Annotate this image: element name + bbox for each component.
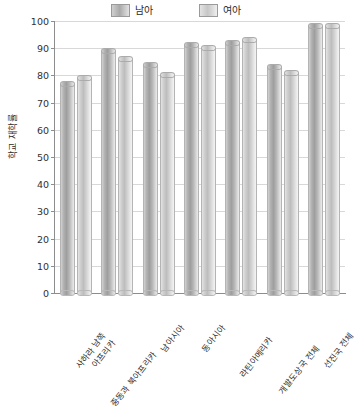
bar-boys bbox=[60, 84, 75, 293]
x-axis-tick-label: 선진국 전체 bbox=[320, 330, 356, 371]
bar-boys bbox=[184, 45, 199, 293]
bar-group bbox=[304, 21, 345, 293]
x-axis-tick-label: 남아시아 bbox=[157, 321, 186, 354]
bar-top-ellipse-icon bbox=[143, 62, 158, 68]
x-axis-tick-label: 개발도상국 전체 bbox=[275, 342, 321, 396]
bar-group bbox=[55, 21, 96, 293]
bar-girls bbox=[242, 40, 257, 293]
y-axis-tick-label: 50 bbox=[37, 152, 49, 163]
bar-top-ellipse-icon bbox=[308, 23, 323, 29]
bar-boys bbox=[101, 51, 116, 293]
bar-top-ellipse-icon bbox=[325, 23, 340, 29]
legend-item-girls: 여아 bbox=[199, 4, 241, 17]
y-axis-tick-label: 10 bbox=[37, 260, 49, 271]
bar-top-ellipse-icon bbox=[160, 72, 175, 78]
bar-girls bbox=[77, 78, 92, 293]
y-axis-title: 학교 재학률 bbox=[6, 67, 19, 207]
y-axis-tick-label: 60 bbox=[37, 124, 49, 135]
bar-girls bbox=[201, 48, 216, 293]
bar-group bbox=[96, 21, 137, 293]
bar-top-ellipse-icon bbox=[242, 37, 257, 43]
x-axis-tick-label: 사하라 남쪽아프리카 bbox=[72, 330, 117, 378]
legend-label-boys: 남아 bbox=[135, 5, 153, 16]
bar-top-ellipse-icon bbox=[184, 42, 199, 48]
x-axis-tick-label: 동아시아 bbox=[199, 321, 228, 354]
y-axis-tick-label: 40 bbox=[37, 179, 49, 190]
x-axis-tick-labels: 사하라 남쪽아프리카중동과 북아프리카남아시아동아시아라틴아메리카개발도상국 전… bbox=[55, 296, 345, 362]
bar-group bbox=[221, 21, 262, 293]
bar-top-ellipse-icon bbox=[118, 56, 133, 62]
bar-boys bbox=[225, 43, 240, 293]
x-axis-tick-label: 중동과 북아프리카 bbox=[108, 349, 159, 409]
bar-top-ellipse-icon bbox=[201, 45, 216, 51]
bar-groups bbox=[55, 21, 345, 293]
bar-top-ellipse-icon bbox=[77, 75, 92, 81]
y-axis-tick-label: 0 bbox=[43, 288, 49, 299]
legend-label-girls: 여아 bbox=[223, 5, 241, 16]
bar-boys bbox=[308, 26, 323, 293]
y-axis-tick-label: 80 bbox=[37, 70, 49, 81]
bar-group bbox=[179, 21, 220, 293]
x-axis-line bbox=[54, 293, 346, 294]
x-axis-tick-label: 라틴아메리카 bbox=[236, 334, 275, 379]
plot-area: 0102030405060708090100 bbox=[55, 21, 345, 293]
bar-top-ellipse-icon bbox=[101, 48, 116, 54]
bar-group bbox=[262, 21, 303, 293]
y-axis-tick-label: 30 bbox=[37, 206, 49, 217]
y-axis-tick-mark bbox=[51, 293, 55, 294]
bar-girls bbox=[118, 59, 133, 293]
chart-legend: 남아 여아 bbox=[0, 4, 351, 17]
bar-top-ellipse-icon bbox=[284, 70, 299, 76]
bar-boys bbox=[143, 65, 158, 293]
y-axis-tick-label: 100 bbox=[31, 16, 49, 27]
bar-girls bbox=[160, 75, 175, 293]
bar-girls bbox=[325, 26, 340, 293]
y-axis-tick-label: 70 bbox=[37, 97, 49, 108]
y-axis-tick-label: 20 bbox=[37, 233, 49, 244]
legend-item-boys: 남아 bbox=[111, 4, 153, 17]
bar-top-ellipse-icon bbox=[267, 64, 282, 70]
bar-boys bbox=[267, 67, 282, 293]
bar-girls bbox=[284, 73, 299, 293]
legend-swatch-boys-icon bbox=[111, 4, 130, 17]
legend-swatch-girls-icon bbox=[199, 4, 218, 17]
bar-top-ellipse-icon bbox=[225, 40, 240, 46]
y-axis-tick-label: 90 bbox=[37, 43, 49, 54]
bar-top-ellipse-icon bbox=[60, 81, 75, 87]
bar-group bbox=[138, 21, 179, 293]
